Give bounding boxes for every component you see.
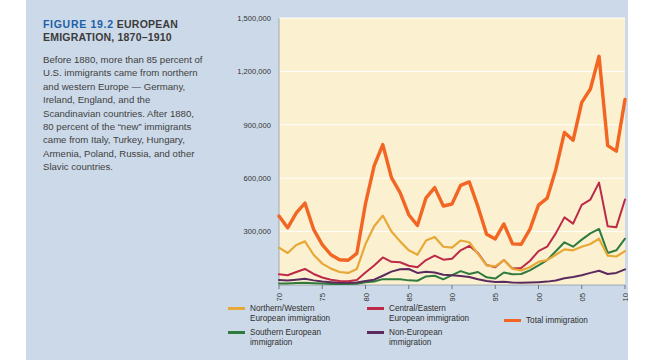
figure-caption-text: Before 1880, more than 85 percent of U.S… [43, 53, 206, 174]
legend-label-southern: Southern European immigration [250, 328, 336, 347]
y-axis-tick-label: 1,200,000 [237, 67, 271, 76]
legend-swatch-southern [228, 331, 245, 334]
figure-container: FIGURE 19.2 EUROPEAN EMIGRATION, 1870–19… [26, 0, 628, 360]
legend-label-northern-western: Northern/Western European immigration [250, 304, 336, 323]
legend-item-total: Total immigration [504, 316, 622, 326]
x-axis-tick-label: 1880 [362, 293, 371, 302]
plot-background [279, 18, 625, 285]
y-axis-tick-label: 300,000 [244, 227, 271, 236]
chart-legend: Northern/Western European immigrationSou… [222, 302, 628, 360]
x-axis-tick-label: 1885 [405, 293, 414, 302]
x-axis-tick-label: 1910 [621, 293, 628, 302]
legend-swatch-total [504, 319, 521, 322]
figure-title: FIGURE 19.2 EUROPEAN EMIGRATION, 1870–19… [43, 18, 206, 44]
legend-item-central-eastern: Central/Eastern European immigration [367, 304, 477, 323]
y-axis-tick-label: 900,000 [244, 121, 271, 130]
legend-item-northern-western: Northern/Western European immigration [228, 304, 336, 323]
figure-caption-panel: FIGURE 19.2 EUROPEAN EMIGRATION, 1870–19… [26, 0, 222, 360]
legend-label-non-european: Non-European immigration [389, 328, 477, 347]
legend-item-southern: Southern European immigration [228, 328, 336, 347]
x-axis-tick-label: 1870 [275, 293, 284, 302]
x-axis-tick-label: 1900 [535, 293, 544, 302]
legend-swatch-non-european [367, 331, 384, 334]
y-axis-tick-label: 600,000 [244, 174, 271, 183]
legend-label-central-eastern: Central/Eastern European immigration [389, 304, 477, 323]
figure-number: FIGURE 19.2 [43, 18, 114, 30]
x-axis-tick-label: 1890 [448, 293, 457, 302]
legend-item-non-european: Non-European immigration [367, 328, 477, 347]
legend-swatch-central-eastern [367, 307, 384, 310]
legend-label-total: Total immigration [526, 316, 622, 326]
y-axis-tick-label: 1,500,000 [237, 14, 271, 23]
emigration-line-chart: 300,000600,000900,0001,200,0001,500,0001… [222, 0, 628, 302]
x-axis-tick-label: 1905 [578, 293, 587, 302]
x-axis-tick-label: 1895 [491, 293, 500, 302]
legend-swatch-northern-western [228, 307, 245, 310]
x-axis-tick-label: 1875 [318, 293, 327, 302]
